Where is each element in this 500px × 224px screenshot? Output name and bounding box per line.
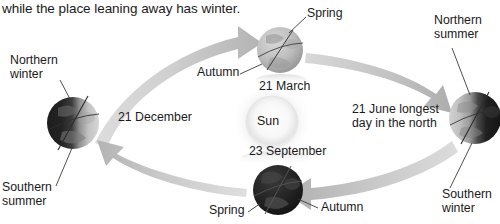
label-sun: Sun [257, 114, 279, 128]
label-southern-winter-line2: winter [442, 201, 475, 215]
label-southern-summer-line1: Southern [2, 180, 52, 194]
orbit-arrow-september-to-december [97, 140, 247, 197]
label-spring-top: Spring [307, 7, 343, 21]
earth-june [449, 48, 500, 188]
leader-spring-top [289, 17, 306, 33]
label-autumn-top: Autumn [197, 66, 239, 80]
label-northern-summer-line2: summer [434, 27, 478, 41]
label-northern-summer: Northern summer [434, 14, 500, 41]
label-date-june-line2: day in the north [352, 116, 437, 130]
label-date-december: 21 December [118, 111, 192, 125]
seasons-diagram-page: while the place leaning away has winter. [0, 0, 500, 224]
leader-northern-summer [452, 48, 470, 95]
label-southern-summer-line2: summer [2, 194, 46, 208]
earth-december [47, 80, 99, 186]
label-date-march: 21 March [259, 80, 310, 94]
label-date-june: 21 June longest day in the north [352, 103, 450, 130]
label-southern-winter: Southern winter [442, 188, 500, 215]
label-northern-winter-line1: Northern [10, 53, 58, 67]
leader-northern-winter [60, 80, 70, 99]
label-northern-winter-line2: winter [10, 67, 43, 81]
label-northern-winter: Northern winter [10, 54, 80, 81]
label-southern-winter-line1: Southern [442, 187, 492, 201]
label-date-june-line1: 21 June longest [352, 102, 439, 116]
leader-autumn-top [240, 64, 262, 74]
label-spring-bottom: Spring [209, 204, 245, 218]
label-northern-summer-line1: Northern [434, 13, 482, 27]
label-date-september: 23 September [249, 145, 326, 159]
leader-spring-bottom [248, 203, 261, 212]
label-autumn-bottom: Autumn [321, 201, 363, 215]
label-southern-summer: Southern summer [2, 181, 74, 208]
